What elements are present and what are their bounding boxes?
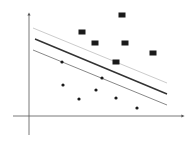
square-marker — [119, 13, 126, 18]
dot-marker — [60, 60, 63, 63]
square-marker — [92, 41, 99, 46]
dot-marker — [114, 96, 117, 99]
axes — [13, 14, 183, 135]
separating-lines — [33, 28, 167, 105]
lower-margin-line — [33, 50, 167, 105]
decision-boundary-line — [35, 39, 167, 94]
dot-marker — [100, 76, 103, 79]
class-a-squares — [79, 13, 157, 65]
upper-margin-line — [33, 28, 167, 83]
square-marker — [113, 60, 120, 65]
dot-marker — [94, 88, 97, 91]
svm-diagram — [0, 0, 196, 149]
dot-marker — [77, 97, 80, 100]
square-marker — [122, 41, 129, 46]
square-marker — [150, 51, 157, 56]
square-marker — [79, 30, 86, 35]
dot-marker — [61, 83, 64, 86]
dot-marker — [135, 106, 138, 109]
class-b-dots — [60, 60, 138, 109]
